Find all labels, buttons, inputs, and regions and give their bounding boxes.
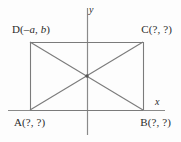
geometry-figure: D(–a, b) C(?, ?) A(?, ?) B(?, ?) y x bbox=[0, 0, 181, 142]
vertex-label-D: D(–a, b) bbox=[12, 23, 50, 35]
diagonal-intersection-point bbox=[85, 74, 88, 77]
y-axis-label: y bbox=[89, 4, 93, 15]
vertex-label-D-suffix: ) bbox=[46, 23, 50, 35]
vertex-label-B: B(?, ?) bbox=[140, 116, 171, 128]
x-axis-label: x bbox=[155, 96, 159, 107]
vertex-label-A: A(?, ?) bbox=[14, 116, 45, 128]
vertex-label-D-prefix: D( bbox=[12, 23, 24, 35]
vertex-label-C: C(?, ?) bbox=[141, 23, 172, 35]
